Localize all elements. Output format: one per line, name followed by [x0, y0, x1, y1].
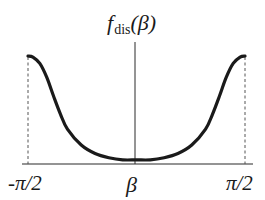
f-dis-curve: [28, 56, 245, 160]
y-label-subscript: dis: [114, 22, 130, 37]
y-label-argument: (β): [130, 10, 156, 35]
x-tick-label-left: -π/2: [8, 171, 42, 195]
x-axis-label: β: [125, 172, 137, 197]
y-axis-label: fdis(β): [107, 10, 156, 37]
x-tick-label-right: π/2: [226, 171, 253, 195]
plot-area: fdis(β) -π/2 β π/2: [0, 0, 265, 200]
